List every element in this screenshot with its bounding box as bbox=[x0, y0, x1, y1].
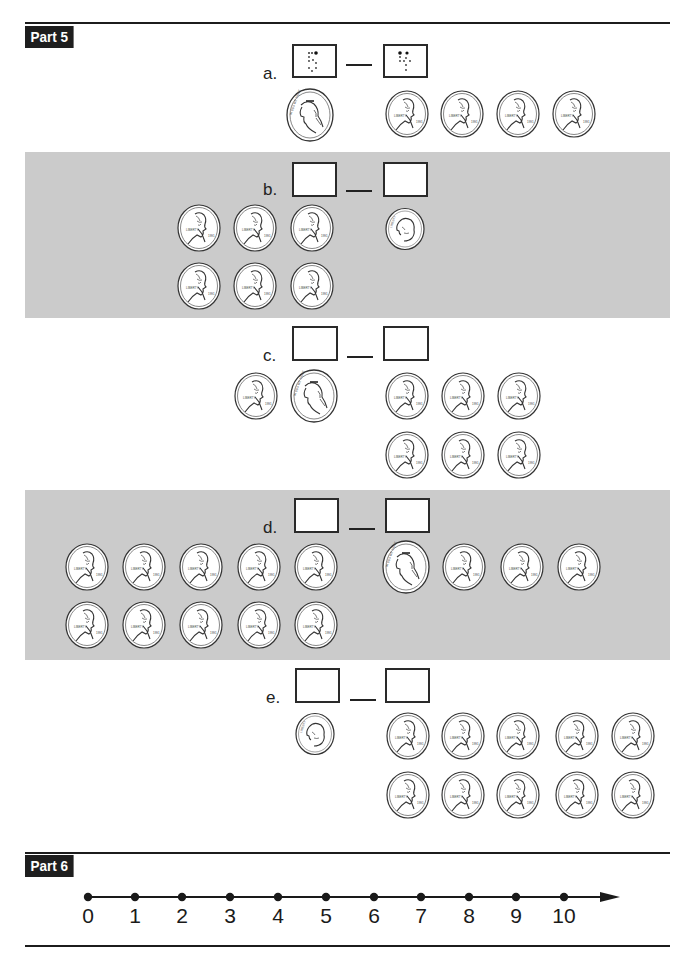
penny-coin-icon bbox=[385, 372, 429, 420]
penny-coin-icon bbox=[294, 601, 338, 649]
problem-e-right-answer-box[interactable] bbox=[385, 668, 430, 703]
part6-bottom-rule bbox=[25, 945, 670, 947]
problem-b-label: b. bbox=[263, 180, 277, 200]
number-line-tick-label: 10 bbox=[552, 904, 575, 928]
problem-a-right-answer-box[interactable] bbox=[383, 44, 428, 78]
part5-top-rule bbox=[25, 22, 670, 24]
penny-coin-icon bbox=[555, 712, 599, 760]
penny-coin-icon bbox=[385, 431, 429, 479]
penny-coin-icon bbox=[233, 262, 277, 310]
penny-coin-icon bbox=[552, 90, 596, 138]
problem-a-left-answer-box[interactable] bbox=[292, 44, 337, 78]
problem-a-dash bbox=[346, 64, 372, 66]
number-line-tick-label: 5 bbox=[320, 904, 332, 928]
dotted-5-trace-icon bbox=[294, 46, 335, 76]
penny-coin-icon bbox=[122, 601, 166, 649]
penny-coin-icon bbox=[177, 204, 221, 252]
problem-b-dash bbox=[346, 190, 372, 192]
penny-coin-icon bbox=[497, 431, 541, 479]
penny-coin-icon bbox=[496, 712, 540, 760]
problem-a-label: a. bbox=[263, 64, 277, 84]
nickel-coin-icon bbox=[286, 88, 334, 142]
dime-coin-icon bbox=[295, 712, 335, 756]
penny-coin-icon bbox=[233, 204, 277, 252]
penny-coin-icon bbox=[386, 771, 430, 819]
problem-c-label: c. bbox=[263, 346, 276, 366]
penny-coin-icon bbox=[237, 543, 281, 591]
penny-coin-icon bbox=[290, 204, 334, 252]
problem-d-label: d. bbox=[263, 518, 277, 538]
dotted-4-trace-icon bbox=[385, 46, 426, 76]
problem-d-right-answer-box[interactable] bbox=[385, 498, 430, 533]
penny-coin-icon bbox=[122, 543, 166, 591]
penny-coin-icon bbox=[557, 543, 601, 591]
penny-coin-icon bbox=[496, 771, 540, 819]
part6-label: Part 6 bbox=[25, 855, 73, 877]
nickel-coin-icon bbox=[382, 540, 430, 594]
penny-coin-icon bbox=[234, 372, 278, 420]
penny-coin-icon bbox=[555, 771, 599, 819]
penny-coin-icon bbox=[386, 712, 430, 760]
problem-c-left-answer-box[interactable] bbox=[292, 326, 338, 361]
penny-coin-icon bbox=[294, 543, 338, 591]
penny-coin-icon bbox=[440, 90, 484, 138]
penny-coin-icon bbox=[441, 771, 485, 819]
penny-coin-icon bbox=[65, 543, 109, 591]
number-line-tick-label: 2 bbox=[176, 904, 188, 928]
problem-d-dash bbox=[349, 528, 375, 530]
problem-e-dash bbox=[350, 699, 376, 701]
penny-coin-icon bbox=[442, 543, 486, 591]
penny-coin-icon bbox=[290, 262, 334, 310]
penny-coin-icon bbox=[179, 601, 223, 649]
number-line-tick-label: 6 bbox=[368, 904, 380, 928]
problem-b-right-answer-box[interactable] bbox=[383, 162, 428, 197]
part5-label: Part 5 bbox=[25, 26, 73, 48]
penny-coin-icon bbox=[611, 712, 655, 760]
penny-coin-icon bbox=[500, 543, 544, 591]
number-line-tick-label: 4 bbox=[272, 904, 284, 928]
penny-coin-icon bbox=[441, 372, 485, 420]
penny-coin-icon bbox=[177, 262, 221, 310]
problem-c-dash bbox=[347, 356, 373, 358]
problem-b-left-answer-box[interactable] bbox=[292, 162, 337, 197]
penny-coin-icon bbox=[496, 90, 540, 138]
penny-coin-icon bbox=[237, 601, 281, 649]
problem-e-label: e. bbox=[266, 688, 280, 708]
problem-c-right-answer-box[interactable] bbox=[383, 326, 429, 361]
problem-e-left-answer-box[interactable] bbox=[295, 668, 340, 703]
number-line-tick-label: 9 bbox=[510, 904, 522, 928]
penny-coin-icon bbox=[497, 372, 541, 420]
number-line: 0 1 2 3 4 5 6 7 8 9 10 bbox=[0, 880, 690, 940]
dime-coin-icon bbox=[385, 207, 425, 251]
penny-coin-icon bbox=[441, 431, 485, 479]
number-line-tick-label: 0 bbox=[82, 904, 94, 928]
penny-coin-icon bbox=[441, 712, 485, 760]
arrow-right-icon bbox=[600, 892, 620, 902]
problem-d-left-answer-box[interactable] bbox=[294, 498, 339, 533]
number-line-axis bbox=[0, 880, 690, 910]
penny-coin-icon bbox=[611, 771, 655, 819]
part6-top-rule bbox=[25, 852, 670, 854]
number-line-tick-label: 3 bbox=[224, 904, 236, 928]
number-line-tick-label: 7 bbox=[415, 904, 427, 928]
penny-coin-icon bbox=[385, 90, 429, 138]
penny-coin-icon bbox=[65, 601, 109, 649]
number-line-tick-label: 1 bbox=[129, 904, 141, 928]
nickel-coin-icon bbox=[290, 369, 338, 423]
penny-coin-icon bbox=[179, 543, 223, 591]
number-line-tick-label: 8 bbox=[463, 904, 475, 928]
problem-b-band bbox=[25, 152, 670, 318]
